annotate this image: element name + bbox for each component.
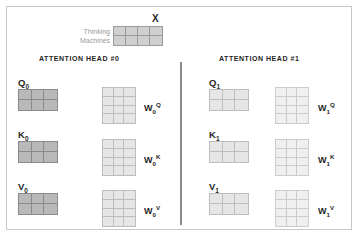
head-0-k-cell — [32, 152, 45, 162]
head-1-vector-label-q: Q1 — [209, 77, 220, 90]
head-1-wv-cell — [287, 217, 298, 226]
head-0-matrix-q — [18, 89, 58, 111]
input-matrix-title: X — [152, 13, 159, 24]
head-1-matrix-wk — [275, 139, 309, 176]
input-matrix-cell — [150, 36, 162, 45]
head-0-wk-cell — [114, 166, 125, 175]
head-0-wk-cell — [114, 149, 125, 158]
head-0-wv-cell — [124, 191, 135, 200]
head-0-wq-cell — [114, 88, 125, 97]
head-0-wq-cell — [103, 106, 114, 115]
head-0-wv-cell — [114, 209, 125, 218]
head-0-q-cell — [19, 90, 32, 100]
weight-letter: W — [144, 206, 153, 216]
head-1-wk-cell — [287, 166, 298, 175]
head-1-matrix-wv — [275, 190, 309, 227]
head-1-wk-cell — [297, 158, 308, 167]
head-0-wv-cell — [103, 200, 114, 209]
head-1-v-cell — [210, 204, 223, 214]
weight-superscript: Q — [330, 101, 335, 108]
input-matrix-cell — [126, 27, 138, 36]
head-0-k-cell — [19, 142, 32, 152]
weight-subscript: 1 — [327, 160, 330, 167]
head-0-wq-cell — [103, 88, 114, 97]
head-1-q-cell — [223, 90, 236, 100]
head-1-title: ATTENTION HEAD #1 — [219, 55, 299, 62]
head-1-wk-cell — [287, 149, 298, 158]
head-0-v-cell — [44, 204, 57, 214]
head-1-wk-cell — [287, 158, 298, 167]
weight-superscript: K — [330, 153, 334, 160]
head-1-wk-cell — [276, 166, 287, 175]
head-1-k-cell — [235, 142, 248, 152]
head-1-wk-cell — [276, 149, 287, 158]
weight-letter: W — [318, 103, 327, 113]
head-0-v-cell — [19, 204, 32, 214]
head-1-vector-label-v: V1 — [209, 181, 219, 194]
head-1-weight-label-wk: W1K — [318, 153, 334, 167]
head-1-wk-cell — [287, 140, 298, 149]
head-1-wq-cell — [297, 88, 308, 97]
head-0-wk-cell — [124, 158, 135, 167]
head-0-matrix-k — [18, 141, 58, 163]
head-1-q-cell — [235, 90, 248, 100]
head-1-k-cell — [223, 142, 236, 152]
head-0-wv-cell — [124, 200, 135, 209]
head-1-v-cell — [210, 194, 223, 204]
input-matrix-cell — [114, 36, 126, 45]
head-1-weight-label-wv: W1V — [318, 204, 334, 218]
input-matrix-cell — [114, 27, 126, 36]
head-0-wq-cell — [114, 114, 125, 123]
weight-superscript: Q — [156, 101, 161, 108]
weight-letter: W — [144, 103, 153, 113]
head-1-wq-cell — [287, 88, 298, 97]
head-0-v-cell — [44, 194, 57, 204]
weight-subscript: 0 — [153, 211, 156, 218]
head-0-wv-cell — [103, 191, 114, 200]
weight-letter: W — [318, 206, 327, 216]
head-1-wq-cell — [297, 97, 308, 106]
head-0-vector-label-v: V0 — [18, 181, 28, 194]
head-1-wq-cell — [276, 114, 287, 123]
head-0-vector-label-k: K0 — [18, 129, 29, 142]
head-0-matrix-wk — [102, 139, 136, 176]
head-1-wv-cell — [276, 209, 287, 218]
head-0-k-cell — [19, 152, 32, 162]
head-0-wq-cell — [114, 97, 125, 106]
head-1-k-cell — [235, 152, 248, 162]
head-1-v-cell — [235, 194, 248, 204]
head-1-wv-cell — [297, 209, 308, 218]
head-1-wv-cell — [297, 217, 308, 226]
head-1-v-cell — [223, 194, 236, 204]
head-0-wk-cell — [103, 149, 114, 158]
input-matrix-cell — [126, 36, 138, 45]
head-1-vector-label-k: K1 — [209, 129, 220, 142]
head-1-wq-cell — [276, 88, 287, 97]
head-1-weight-label-wq: W1Q — [318, 101, 335, 115]
head-0-wq-cell — [124, 114, 135, 123]
head-0-wk-cell — [114, 158, 125, 167]
head-1-q-cell — [235, 100, 248, 110]
head-0-vector-label-q: Q0 — [18, 77, 29, 90]
input-matrix-cell — [150, 27, 162, 36]
head-1-q-cell — [210, 90, 223, 100]
head-1-q-cell — [223, 100, 236, 110]
head-1-wv-cell — [276, 217, 287, 226]
head-1-wk-cell — [297, 140, 308, 149]
weight-superscript: V — [330, 204, 334, 211]
head-1-q-cell — [210, 100, 223, 110]
head-1-wv-cell — [276, 200, 287, 209]
weight-letter: W — [318, 155, 327, 165]
head-1-wv-cell — [287, 209, 298, 218]
head-1-wq-cell — [287, 97, 298, 106]
head-1-wk-cell — [276, 158, 287, 167]
head-1-wk-cell — [297, 166, 308, 175]
head-1-k-cell — [210, 152, 223, 162]
head-1-matrix-q — [209, 89, 249, 111]
vector-letter: K — [18, 129, 25, 140]
input-matrix-cell — [138, 36, 150, 45]
head-0-wk-cell — [103, 158, 114, 167]
head-1-wv-cell — [297, 191, 308, 200]
vector-letter: K — [209, 129, 216, 140]
head-0-wv-cell — [114, 191, 125, 200]
